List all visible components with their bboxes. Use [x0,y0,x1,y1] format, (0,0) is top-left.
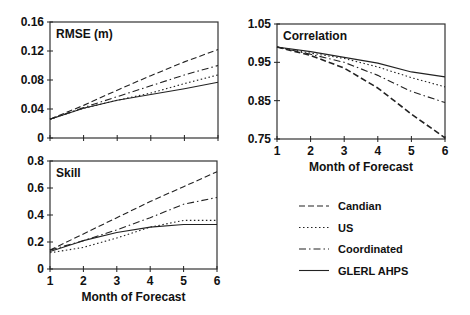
legend: CandianUSCoordinatedGLERL AHPS [299,200,408,277]
x-tick-label: 5 [180,274,187,288]
x-tick-label: 4 [147,274,154,288]
y-tick-label: 0.95 [248,55,272,69]
x-tick-label: 1 [47,274,54,288]
x-tick-label: 6 [214,274,221,288]
x-axis-label: Month of Forecast [309,160,413,174]
rmse-chart: 00.040.080.120.16RMSE (m) [21,15,218,145]
y-tick-label: 0.12 [21,44,45,58]
series-line-glerl-ahps [50,82,218,119]
legend-label: GLERL AHPS [338,265,408,277]
chart-title: Skill [56,166,81,180]
y-tick-label: 0 [37,131,44,145]
series-line-glerl-ahps [277,47,445,77]
y-tick-label: 0 [37,262,44,276]
x-tick-label: 3 [341,144,348,158]
y-tick-label: 0.6 [27,181,44,195]
y-tick-label: 0.8 [27,154,44,168]
y-tick-label: 0.4 [27,208,44,222]
y-tick-label: 0.08 [21,73,45,87]
series-line-coordinated [277,47,445,103]
correlation-chart: 0.750.850.951.05123456CorrelationMonth o… [248,17,449,174]
y-tick-label: 0.04 [21,102,45,116]
x-tick-label: 4 [374,144,381,158]
x-tick-label: 3 [113,274,120,288]
y-tick-label: 1.05 [248,17,272,31]
figure: 00.040.080.120.16RMSE (m)0.750.850.951.0… [0,0,470,315]
y-tick-label: 0.75 [248,132,272,146]
y-tick-label: 0.2 [27,235,44,249]
x-tick-label: 2 [307,144,314,158]
chart-title: RMSE (m) [56,27,113,41]
chart-title: Correlation [283,29,347,43]
series-line-us [50,220,217,252]
y-tick-label: 0.85 [248,94,272,108]
x-tick-label: 5 [408,144,415,158]
skill-chart: 00.20.40.60.8123456SkillMonth of Forecas… [27,154,220,304]
x-tick-label: 6 [442,144,449,158]
legend-label: US [338,222,353,234]
x-tick-label: 2 [80,274,87,288]
legend-label: Coordinated [338,243,403,255]
series-line-coordinated [50,197,217,250]
x-axis-label: Month of Forecast [82,290,186,304]
series-line-candian [50,172,217,250]
legend-label: Candian [338,200,382,212]
series-line-candian [50,50,218,120]
x-tick-label: 1 [274,144,281,158]
y-tick-label: 0.16 [21,15,45,29]
